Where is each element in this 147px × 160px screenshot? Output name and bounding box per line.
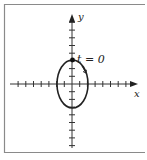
x-axis-label: x: [134, 88, 140, 99]
y-axis-label: y: [77, 11, 84, 22]
start-point-label: t = 0: [77, 53, 105, 66]
parametric-ellipse-figure: x y t = 0: [0, 0, 147, 160]
start-point-marker: [70, 58, 75, 63]
x-axis-arrow-icon: [130, 81, 138, 87]
y-axis-arrow-icon: [69, 14, 75, 22]
